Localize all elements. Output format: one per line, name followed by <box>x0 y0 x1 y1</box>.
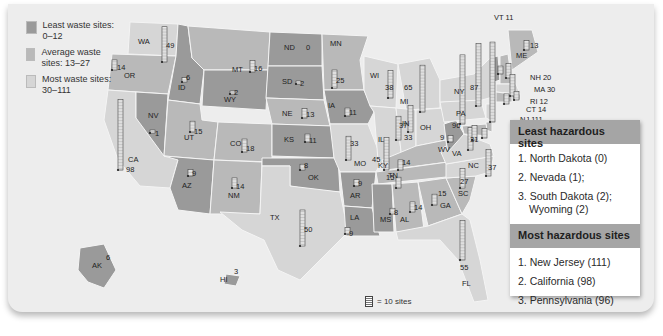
state-value-pa: 96 <box>452 121 460 130</box>
state-value-ny: 87 <box>470 83 478 92</box>
state-value-mo: 33 <box>350 139 358 148</box>
state-value-ok: 8 <box>304 161 308 170</box>
least-item: 1. North Dakota (0) <box>518 152 632 165</box>
legend-item-most: Most waste sites: 30–111 <box>26 74 116 96</box>
state-abbr-nc: NC <box>468 161 479 170</box>
state-abbr-mn: MN <box>330 39 342 48</box>
state-abbr-mo: MO <box>354 159 366 168</box>
state-value-wa: 49 <box>166 41 174 50</box>
state-abbr-hi: HI <box>220 275 228 284</box>
legend-item-least: Least waste sites: 0–12 <box>26 20 116 42</box>
state-abbr-wa: WA <box>138 37 150 46</box>
state-abbr-ga: GA <box>440 201 451 210</box>
state-value-hi: 3 <box>234 267 238 276</box>
state-abbr-mi: MI <box>400 97 408 106</box>
state-abbr-wi: WI <box>370 71 379 80</box>
state-mn <box>322 34 368 90</box>
state-value-tn: 15 <box>386 173 394 182</box>
legend-label: Most waste sites: 30–111 <box>42 74 116 96</box>
state-value-la: 9 <box>349 229 353 238</box>
least-item-text: 3. South Dakota (2); <box>518 190 612 202</box>
state-abbr-fl: FL <box>462 279 471 288</box>
state-abbr-ks: KS <box>284 135 294 144</box>
bar-wv <box>448 136 453 142</box>
state-value-al: 14 <box>414 203 422 212</box>
state-ar <box>340 172 376 208</box>
state-value-nd: 0 <box>306 43 310 52</box>
state-abbr-la: LA <box>350 213 359 222</box>
bar-segment-icon <box>365 296 373 307</box>
state-abbr-ok: OK <box>308 173 319 182</box>
state-value-tx: 50 <box>304 225 312 234</box>
most-panel-title: Most hazardous sites <box>510 224 640 248</box>
state-abbr-ca: CA <box>128 155 138 164</box>
state-abbr-va: VA <box>452 149 461 158</box>
state-value-ga: 15 <box>438 189 446 198</box>
state-sd <box>266 66 324 100</box>
legend-swatch-average <box>26 48 35 61</box>
state-abbr-sc: SC <box>458 189 469 198</box>
least-item: 2. Nevada (1); <box>518 171 632 184</box>
scale-key: = 10 sites <box>365 296 411 307</box>
state-value-oh: 37 <box>399 121 407 130</box>
state-abbr-pa: PA <box>456 109 465 118</box>
least-panel-list: 1. North Dakota (0) 2. Nevada (1); 3. So… <box>510 144 640 224</box>
state-value-ak: 6 <box>106 253 110 262</box>
legend-label: Least waste sites: 0–12 <box>43 20 116 42</box>
state-value-fl: 55 <box>460 263 468 272</box>
state-value-ms: 8 <box>394 208 398 217</box>
state-abbr-al: AL <box>400 215 409 224</box>
state-abbr-tx: TX <box>270 213 280 222</box>
state-value-mi: 65 <box>404 83 412 92</box>
state-abbr-ut: UT <box>184 133 194 142</box>
state-abbr-co: CO <box>230 139 241 148</box>
state-value-co: 18 <box>246 144 254 153</box>
state-value-sd: 2 <box>300 79 304 88</box>
legend: Least waste sites: 0–12 Average waste si… <box>26 20 116 101</box>
bar-vt <box>498 66 503 74</box>
state-value-mt: 16 <box>254 64 262 73</box>
state-value-ne: 13 <box>306 110 314 119</box>
state-label-ct: CT 14 <box>526 105 546 114</box>
state-abbr-ny: NY <box>454 87 464 96</box>
state-abbr-ia: IA <box>328 101 335 110</box>
state-value-ks: 11 <box>309 136 317 145</box>
state-value-in: 33 <box>404 133 412 142</box>
state-value-me: 13 <box>530 41 538 50</box>
state-abbr-ak: AK <box>92 261 102 270</box>
state-nd <box>268 32 322 66</box>
state-value-wi: 38 <box>385 83 393 92</box>
state-abbr-wv: WV <box>438 145 450 154</box>
state-value-nm: 14 <box>236 182 244 191</box>
state-label-vt: VT 11 <box>494 13 513 22</box>
ranking-panel: Least hazardous sites 1. North Dakota (0… <box>510 120 640 296</box>
state-abbr-ky: KY <box>378 161 388 170</box>
most-item: 1. New Jersey (111) <box>518 256 632 269</box>
state-ks <box>272 124 334 158</box>
state-value-wy: 2 <box>234 88 238 97</box>
state-value-wv: 9 <box>440 133 444 142</box>
state-abbr-mt: MT <box>232 65 243 74</box>
state-abbr-nm: NM <box>228 191 240 200</box>
state-value-ar: 9 <box>358 179 362 188</box>
state-abbr-me: ME <box>516 51 527 60</box>
least-item: 3. South Dakota (2); Wyoming (2) <box>518 190 632 216</box>
state-value-nc: 37 <box>488 163 496 172</box>
state-value-va: 31 <box>470 135 478 144</box>
state-wa <box>128 22 178 56</box>
legend-label: Average waste sites: 13–27 <box>41 47 116 69</box>
state-ny <box>440 58 496 102</box>
state-abbr-il: IL <box>378 135 384 144</box>
state-value-ky: 14 <box>402 158 410 167</box>
least-item-text: Wyoming (2) <box>518 203 632 216</box>
state-value-ia: 11 <box>349 108 357 117</box>
legend-item-average: Average waste sites: 13–27 <box>26 47 116 69</box>
state-value-id: 6 <box>186 73 190 82</box>
state-abbr-or: OR <box>124 71 136 80</box>
state-value-ca: 98 <box>126 165 134 174</box>
state-abbr-id: ID <box>178 83 186 92</box>
most-panel-list: 1. New Jersey (111) 2. California (98) 3… <box>510 248 640 315</box>
state-value-ut: 15 <box>194 127 202 136</box>
state-abbr-ne: NE <box>282 109 292 118</box>
state-abbr-ms: MS <box>380 215 391 224</box>
